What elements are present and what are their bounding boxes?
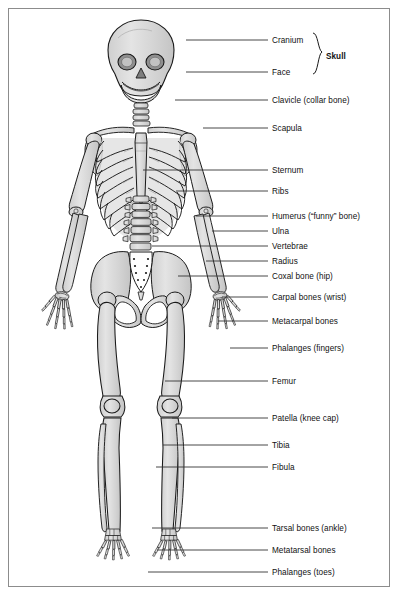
skull-brace: [313, 33, 322, 74]
label-tibia: Tibia: [272, 441, 290, 450]
label-tarsal: Tarsal bones (ankle): [272, 524, 347, 533]
skeleton-body: [39, 20, 242, 560]
label-clavicle: Clavicle (collar bone): [272, 96, 350, 105]
label-sternum: Sternum: [272, 166, 303, 175]
label-carpal: Carpal bones (wrist): [272, 293, 346, 302]
label-patella: Patella (knee cap): [272, 414, 339, 423]
label-ribs: Ribs: [272, 187, 289, 196]
cervical-spine: [133, 103, 150, 126]
left-arm: [39, 141, 99, 331]
skull-group: [108, 20, 174, 103]
label-phalanges_fingers: Phalanges (fingers): [272, 344, 344, 353]
right-leg: [153, 292, 186, 560]
label-face: Face: [272, 68, 290, 77]
label-humerus: Humerus (“funny” bone): [272, 212, 360, 221]
label-coxal: Coxal bone (hip): [272, 272, 333, 281]
label-phalanges_toes: Phalanges (toes): [272, 568, 335, 577]
label-ulna: Ulna: [272, 227, 289, 236]
label-radius: Radius: [272, 257, 298, 266]
label-metacarpal: Metacarpal bones: [272, 317, 338, 326]
skeleton-diagram-page: CraniumFaceSkullClavicle (collar bone)Sc…: [0, 0, 399, 596]
left-leg: [97, 292, 130, 560]
label-fibula: Fibula: [272, 463, 295, 472]
label-femur: Femur: [272, 377, 296, 386]
label-vertebrae: Vertebrae: [272, 242, 308, 251]
label-scapula: Scapula: [272, 124, 302, 133]
label-cranium: Cranium: [272, 36, 303, 45]
label-skull: Skull: [326, 52, 346, 61]
label-metatarsal: Metatarsal bones: [272, 546, 336, 555]
